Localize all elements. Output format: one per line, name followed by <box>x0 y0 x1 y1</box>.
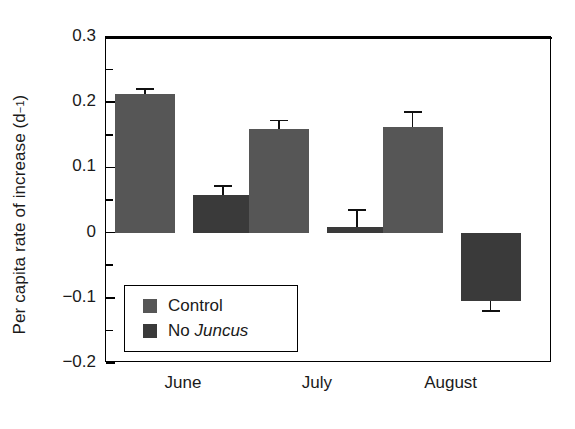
bar-august-no-juncus <box>461 233 521 301</box>
y-tick-major <box>106 167 115 169</box>
y-tick-label: 0.1 <box>10 156 96 176</box>
legend-swatch-icon <box>143 299 157 313</box>
x-tick-label-july: July <box>302 373 332 393</box>
x-tick-label-june: June <box>165 373 202 393</box>
legend-box: ControlNo Juncus <box>124 285 298 352</box>
chart-figure: Per capita rate of increase (d−1) 0.30.2… <box>0 0 575 429</box>
bar-june-control <box>115 94 175 232</box>
x-tick-label-august: August <box>424 373 477 393</box>
legend-label: No Juncus <box>168 321 248 341</box>
zero-baseline <box>106 37 552 39</box>
error-whisker <box>278 120 280 128</box>
error-cap <box>136 88 154 90</box>
y-tick-minor <box>106 134 113 136</box>
legend-swatch-icon <box>143 324 157 338</box>
error-cap <box>270 120 288 122</box>
error-whisker <box>356 210 358 228</box>
legend-item-control[interactable]: Control <box>143 293 297 318</box>
y-tick-label: 0 <box>10 222 96 242</box>
y-tick-label: 0.2 <box>10 91 96 111</box>
error-cap <box>214 185 232 187</box>
error-whisker <box>412 112 414 127</box>
y-tick-minor <box>106 199 113 201</box>
y-tick-minor <box>106 69 113 71</box>
error-cap <box>348 209 366 211</box>
legend-item-no-juncus[interactable]: No Juncus <box>143 318 297 343</box>
y-tick-major <box>106 36 115 38</box>
bar-june-no-juncus <box>193 195 253 233</box>
y-tick-major <box>106 101 115 103</box>
bar-august-control <box>383 127 443 233</box>
y-tick-major <box>106 297 115 299</box>
error-whisker <box>222 186 224 194</box>
bar-july-no-juncus <box>327 227 387 232</box>
legend-label: Control <box>168 296 223 316</box>
error-cap <box>482 310 500 312</box>
y-tick-label: 0.3 <box>10 26 96 46</box>
y-tick-minor <box>106 330 113 332</box>
y-tick-major <box>106 362 115 364</box>
y-tick-label: −0.1 <box>10 287 96 307</box>
error-cap <box>404 111 422 113</box>
y-tick-major <box>106 232 115 234</box>
y-tick-label: −0.2 <box>10 352 96 372</box>
bar-july-control <box>249 129 309 233</box>
y-tick-minor <box>106 264 113 266</box>
